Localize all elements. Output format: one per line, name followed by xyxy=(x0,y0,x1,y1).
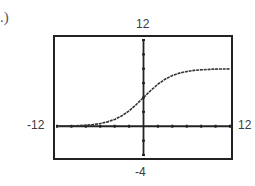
calculator-graph xyxy=(0,0,255,186)
